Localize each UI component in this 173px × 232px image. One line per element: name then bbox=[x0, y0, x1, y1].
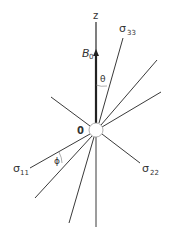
sigma22-label: σ bbox=[142, 162, 149, 175]
sigma33-label: σ bbox=[119, 22, 126, 35]
tensor-orientation-diagram: z B 0 θ σ 33 0 ϕ σ 11 σ 22 bbox=[0, 0, 173, 232]
sigma33-subscript: 33 bbox=[127, 29, 136, 37]
sigma11-subscript: 11 bbox=[20, 169, 29, 177]
sigma22-axis bbox=[102, 134, 140, 163]
b0-arrowhead-icon bbox=[93, 49, 99, 56]
phi-label: ϕ bbox=[54, 156, 60, 166]
origin-label: 0 bbox=[77, 125, 84, 136]
radial-line bbox=[69, 137, 94, 223]
sigma22-subscript: 22 bbox=[150, 169, 159, 177]
sigma11-label: σ bbox=[13, 162, 20, 175]
sigma11-axis bbox=[30, 134, 90, 168]
radial-line bbox=[51, 97, 90, 126]
theta-label: θ bbox=[100, 74, 106, 84]
z-axis-label: z bbox=[93, 10, 98, 21]
radial-line bbox=[101, 60, 157, 125]
b0-subscript: 0 bbox=[89, 53, 93, 61]
theta-arc bbox=[96, 85, 107, 86]
radial-line bbox=[35, 136, 92, 198]
origin-nucleus bbox=[89, 123, 103, 137]
radial-line bbox=[102, 92, 161, 127]
